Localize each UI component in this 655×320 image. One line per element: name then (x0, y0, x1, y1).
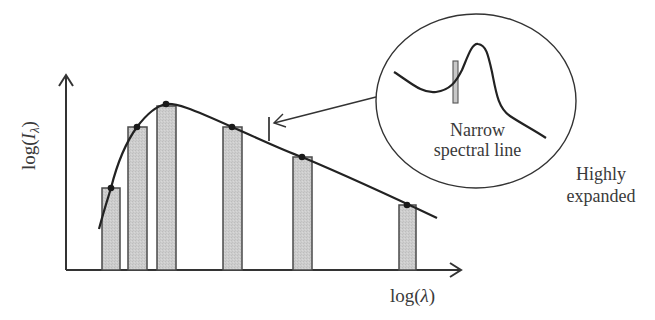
inset-caption: Highly expanded (556, 163, 646, 207)
sample-point-5 (299, 154, 306, 161)
inset-pointer-arrow (274, 97, 376, 127)
sample-bar-5 (293, 157, 312, 270)
inset-label-line2: spectral line (420, 140, 535, 160)
sample-bar-6 (399, 205, 416, 270)
spectral-diagram (0, 0, 655, 320)
y-axis-label: log(Iλ) (18, 121, 43, 170)
magnified-inset (376, 14, 576, 188)
sample-bars (102, 106, 416, 270)
sample-point-6 (404, 202, 411, 209)
sample-point-4 (229, 124, 236, 131)
sample-bar-4 (223, 127, 242, 270)
sample-point-1 (108, 185, 115, 192)
y-axis (59, 75, 73, 270)
sample-point-2 (134, 124, 141, 131)
inset-label: Narrow spectral line (420, 120, 535, 160)
sample-bar-2 (128, 127, 147, 270)
inset-label-line1: Narrow (420, 120, 535, 140)
sample-point-3 (163, 101, 170, 108)
inset-caption-line1: Highly (556, 163, 646, 185)
x-axis-label: log(λ) (390, 285, 435, 307)
sample-bar-1 (102, 188, 120, 270)
sample-points (108, 101, 411, 209)
inset-caption-line2: expanded (556, 185, 646, 207)
sample-bar-3 (157, 106, 176, 270)
